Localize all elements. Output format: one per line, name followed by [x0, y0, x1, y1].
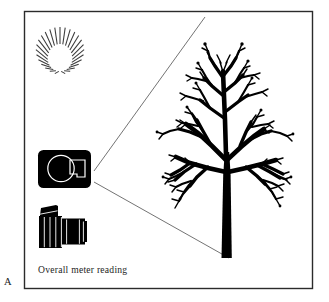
figure-container: A Overall meter reading: [0, 0, 329, 302]
panel-label: A: [4, 277, 12, 288]
camera-front-body-icon: [38, 150, 91, 188]
illustration-canvas: [0, 0, 329, 302]
meter-reading-caption: Overall meter reading: [38, 265, 127, 276]
